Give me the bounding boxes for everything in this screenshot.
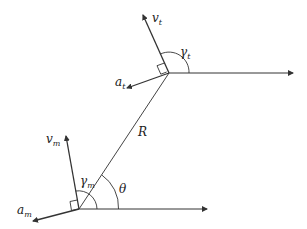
diagram-lines xyxy=(0,0,307,229)
target-acceleration-arrow xyxy=(127,73,169,88)
guidance-diagram: vt γt at R vm γm θ am xyxy=(0,0,307,229)
label-R: R xyxy=(138,126,147,138)
label-gamma-m: γm xyxy=(80,175,95,190)
missile-velocity-arrow xyxy=(66,136,79,209)
theta-arc xyxy=(102,175,119,209)
label-theta: θ xyxy=(119,183,126,195)
label-v-m: vm xyxy=(46,133,60,148)
label-v-t: vt xyxy=(152,12,162,27)
label-a-m: am xyxy=(17,204,32,219)
label-gamma-t: γt xyxy=(180,46,190,61)
label-a-t: at xyxy=(115,76,125,91)
